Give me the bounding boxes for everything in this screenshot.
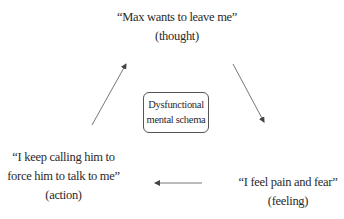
action-text-line-2: force him to talk to me” — [0, 167, 127, 186]
feeling-text: “I feel pain and fear” — [224, 173, 344, 192]
feeling-label: (feeling) — [224, 192, 344, 211]
thought-node: “Max wants to leave me” (thought) — [97, 8, 257, 46]
center-line-1: Dysfunctional — [144, 97, 208, 112]
arrow-action-to-thought — [92, 64, 126, 125]
center-schema-box: Dysfunctional mental schema — [143, 92, 209, 133]
thought-label: (thought) — [97, 27, 257, 46]
feeling-node: “I feel pain and fear” (feeling) — [224, 173, 344, 211]
action-text-line-1: “I keep calling him to — [0, 148, 127, 167]
action-node: “I keep calling him to force him to talk… — [0, 148, 127, 205]
arrow-thought-to-feeling — [233, 64, 264, 122]
center-line-2: mental schema — [144, 112, 208, 127]
action-label: (action) — [0, 186, 127, 205]
thought-text: “Max wants to leave me” — [97, 8, 257, 27]
